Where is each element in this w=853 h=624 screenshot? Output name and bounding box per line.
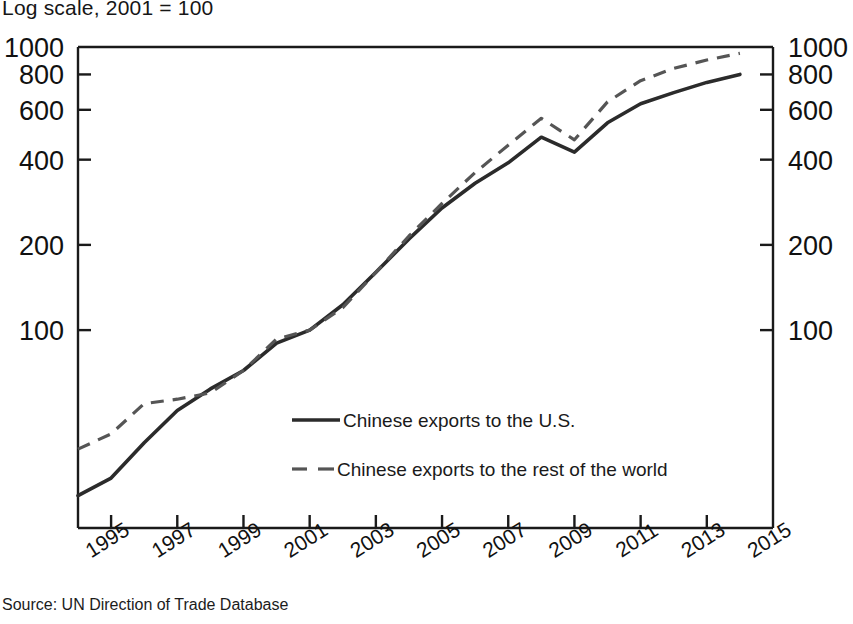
y-axis-label-left: 400 bbox=[19, 146, 64, 176]
y-axis-label-left: 800 bbox=[19, 60, 64, 90]
legend-label-chinese-exports-rest-of-world: Chinese exports to the rest of the world bbox=[337, 459, 668, 480]
y-axis-label-left: 600 bbox=[19, 96, 64, 126]
y-axis-right-ticks bbox=[760, 74, 773, 330]
x-axis-label: 2015 bbox=[743, 518, 795, 562]
y-axis-label-right: 800 bbox=[788, 60, 833, 90]
source-note: Source: UN Direction of Trade Database bbox=[2, 596, 288, 614]
y-axis-label-left: 100 bbox=[19, 316, 64, 346]
x-axis-label: 1999 bbox=[214, 518, 266, 562]
x-axis-ticks bbox=[111, 515, 707, 528]
x-axis-label: 2009 bbox=[545, 518, 597, 562]
series-line-chinese-exports-rest-of-world bbox=[78, 53, 740, 449]
y-axis-label-right: 200 bbox=[788, 231, 833, 261]
x-axis-label: 1997 bbox=[147, 518, 199, 562]
y-axis-left-labels: 1002004006008001000 bbox=[4, 33, 64, 346]
y-axis-right-labels: 1002004006008001000 bbox=[788, 33, 848, 346]
y-axis-label-right: 600 bbox=[788, 96, 833, 126]
axis-frame bbox=[78, 47, 773, 528]
x-axis-label: 2003 bbox=[346, 518, 398, 562]
series-line-chinese-exports-us bbox=[78, 74, 740, 495]
y-axis-label-right: 1000 bbox=[788, 33, 848, 63]
x-axis-label: 2011 bbox=[611, 518, 661, 561]
y-axis-label-right: 400 bbox=[788, 146, 833, 176]
x-axis-label: 2013 bbox=[677, 518, 729, 562]
x-axis-label: 2007 bbox=[478, 518, 530, 562]
plot-frame bbox=[78, 47, 773, 528]
x-axis-labels: 1995199719992001200320052007200920112013… bbox=[81, 518, 795, 562]
y-axis-label-left: 1000 bbox=[4, 33, 64, 63]
x-axis-label: 2005 bbox=[412, 518, 464, 562]
chart-svg: 1002004006008001000 1002004006008001000 … bbox=[0, 0, 853, 624]
chart-figure: 1002004006008001000 1002004006008001000 … bbox=[0, 0, 853, 624]
x-axis-label: 2001 bbox=[280, 518, 332, 562]
y-axis-label-left: 200 bbox=[19, 231, 64, 261]
y-axis-label-right: 100 bbox=[788, 316, 833, 346]
x-axis-label: 1995 bbox=[81, 518, 133, 562]
legend-label-chinese-exports-us: Chinese exports to the U.S. bbox=[343, 410, 575, 431]
chart-legend: Chinese exports to the U.S. Chinese expo… bbox=[292, 410, 668, 480]
y-axis-left-ticks bbox=[78, 74, 91, 330]
